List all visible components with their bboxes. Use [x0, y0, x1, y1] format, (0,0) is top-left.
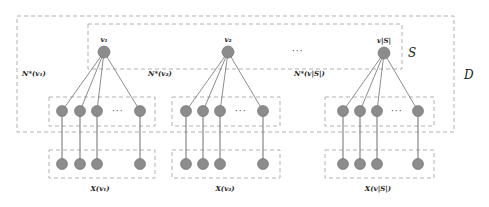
neighbor-node[interactable]: [92, 106, 103, 117]
feature-node[interactable]: [258, 159, 269, 170]
group-2: ···v₂N*(v₂)X(v₂): [147, 35, 280, 193]
neighbor-node[interactable]: [413, 106, 424, 117]
neighbor-ellipsis: ···: [391, 106, 403, 116]
set-s-label: S: [408, 46, 416, 60]
diagram-canvas: S D ··· ···v₁N*(v₁)X(v₁)···v₂N*(v₂)X(v₂)…: [0, 0, 489, 207]
group-1: ···v₁N*(v₁)X(v₁): [21, 35, 155, 193]
neighbor-set-label: N*(v₁): [21, 69, 46, 78]
feature-node[interactable]: [135, 159, 146, 170]
feature-node[interactable]: [57, 159, 68, 170]
feature-node[interactable]: [198, 159, 209, 170]
feature-set-label: X(v|S|): [364, 184, 391, 193]
feature-node[interactable]: [355, 159, 366, 170]
center-label: v₁: [100, 35, 107, 44]
feature-node[interactable]: [215, 159, 226, 170]
neighbor-node[interactable]: [258, 106, 269, 117]
neighbor-node[interactable]: [57, 106, 68, 117]
set-d-label: D: [463, 68, 474, 82]
neighbor-node[interactable]: [215, 106, 226, 117]
center-neighbor-edge: [104, 52, 140, 111]
feature-set-label: X(v₂): [214, 184, 234, 193]
neighbor-node[interactable]: [135, 106, 146, 117]
neighbor-node[interactable]: [338, 106, 349, 117]
neighbor-ellipsis: ···: [112, 106, 124, 116]
center-node[interactable]: [98, 46, 110, 58]
neighbor-node[interactable]: [75, 106, 86, 117]
neighbor-set-label: N*(v|S|): [293, 69, 325, 78]
neighbor-node[interactable]: [372, 106, 383, 117]
neighbor-ellipsis: ···: [235, 106, 247, 116]
neighbor-node[interactable]: [181, 106, 192, 117]
feature-node[interactable]: [413, 159, 424, 170]
neighbor-node[interactable]: [355, 106, 366, 117]
center-neighbor-edge: [384, 53, 418, 111]
neighbor-set-label: N*(v₂): [147, 69, 172, 78]
feature-set-label: X(v₁): [89, 184, 109, 193]
feature-node[interactable]: [181, 159, 192, 170]
feature-node[interactable]: [372, 159, 383, 170]
centers-ellipsis: ···: [292, 46, 304, 56]
feature-node[interactable]: [75, 159, 86, 170]
center-node[interactable]: [222, 46, 234, 58]
center-label: v|S|: [377, 36, 391, 45]
neighbor-node[interactable]: [198, 106, 209, 117]
feature-node[interactable]: [338, 159, 349, 170]
set-s-box: [88, 24, 402, 69]
feature-node[interactable]: [92, 159, 103, 170]
center-neighbor-edge: [228, 52, 263, 111]
center-label: v₂: [224, 35, 231, 44]
center-node[interactable]: [378, 47, 390, 59]
groups-layer: ···v₁N*(v₁)X(v₁)···v₂N*(v₂)X(v₂)···v|S|N…: [21, 35, 434, 193]
